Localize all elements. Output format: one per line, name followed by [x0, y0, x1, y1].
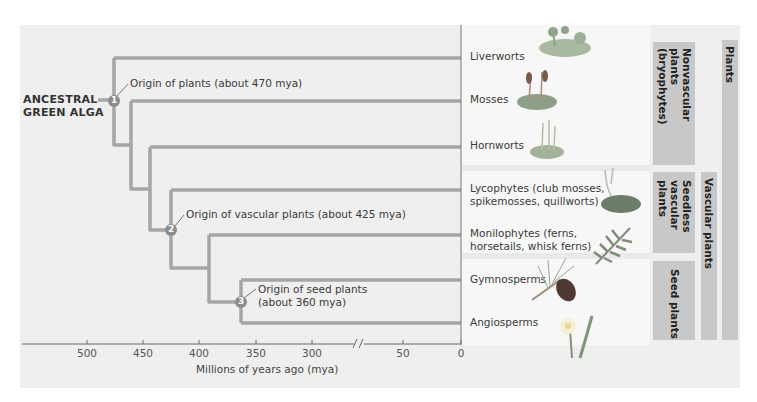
- root-label-line1: ANCESTRAL: [23, 93, 104, 106]
- node-1-annotation: Origin of plants (about 470 mya): [130, 77, 302, 90]
- group-label-nonvascular-l2: plants: [669, 48, 681, 85]
- taxon-lycophytes-line2: spikemosses, quillworts): [470, 195, 605, 208]
- group-label-seedless-l1: Seedless: [681, 180, 693, 233]
- taxon-hornworts: Hornworts: [470, 139, 524, 152]
- axis-tick-50: 50: [396, 347, 409, 359]
- node-markers: [108, 95, 247, 308]
- group-label-nonvascular-l3: (bryophytes): [657, 48, 669, 125]
- pine-cone-illustration-icon: [530, 256, 585, 304]
- axis-title: Millions of years ago (mya): [196, 363, 338, 375]
- group-label-seedless-l2: vascular: [669, 180, 681, 230]
- liverwort-illustration-icon: [535, 22, 595, 62]
- group-bar-seedless-vascular: Seedless vascular plants: [653, 172, 695, 253]
- group-bar-seed-plants: Seed plants: [653, 261, 695, 340]
- node-3-annotation: Origin of seed plants (about 360 mya): [258, 283, 367, 309]
- node-number-1: 1: [111, 94, 117, 107]
- phylogenetic-tree: [0, 0, 757, 402]
- group-label-seed: Seed plants: [669, 269, 681, 339]
- group-bar-plants: Plants: [722, 40, 738, 340]
- daffodil-illustration-icon: [550, 308, 595, 360]
- node-number-3: 3: [238, 295, 244, 308]
- node-number-2: 2: [168, 223, 174, 236]
- node-2-annotation: Origin of vascular plants (about 425 mya…: [186, 208, 406, 221]
- fern-illustration-icon: [590, 222, 638, 268]
- taxon-monilophytes: Monilophytes (ferns, horsetails, whisk f…: [470, 227, 591, 253]
- axis-tick-350: 350: [246, 347, 266, 359]
- taxon-lycophytes-line1: Lycophytes (club mosses,: [470, 182, 605, 195]
- axis-tick-400: 400: [189, 347, 209, 359]
- root-label: ANCESTRAL GREEN ALGA: [23, 93, 104, 119]
- group-bar-vascular: Vascular plants: [701, 172, 717, 340]
- axis-tick-300: 300: [302, 347, 322, 359]
- node-3-annotation-line1: Origin of seed plants: [258, 283, 367, 296]
- hornwort-illustration-icon: [527, 118, 567, 160]
- group-label-vascular: Vascular plants: [703, 178, 715, 269]
- group-label-nonvascular-l1: Nonvascular: [681, 48, 693, 121]
- group-label-plants: Plants: [724, 46, 736, 83]
- group-bar-nonvascular: Nonvascular plants (bryophytes): [653, 42, 695, 165]
- axis-tick-450: 450: [133, 347, 153, 359]
- lycophyte-illustration-icon: [595, 166, 643, 216]
- taxon-monilophytes-line1: Monilophytes (ferns,: [470, 227, 591, 240]
- moss-illustration-icon: [515, 62, 560, 112]
- axis-tick-0: 0: [458, 347, 465, 359]
- taxon-mosses: Mosses: [470, 93, 508, 106]
- taxon-angiosperms: Angiosperms: [470, 316, 538, 329]
- axis-tick-500: 500: [77, 347, 97, 359]
- taxon-monilophytes-line2: horsetails, whisk ferns): [470, 240, 591, 253]
- axis-break-icon: [353, 339, 364, 348]
- root-label-line2: GREEN ALGA: [23, 106, 104, 119]
- taxon-lycophytes: Lycophytes (club mosses, spikemosses, qu…: [470, 182, 605, 208]
- group-label-seedless-l3: plants: [657, 180, 669, 217]
- node-3-annotation-line2: (about 360 mya): [258, 296, 367, 309]
